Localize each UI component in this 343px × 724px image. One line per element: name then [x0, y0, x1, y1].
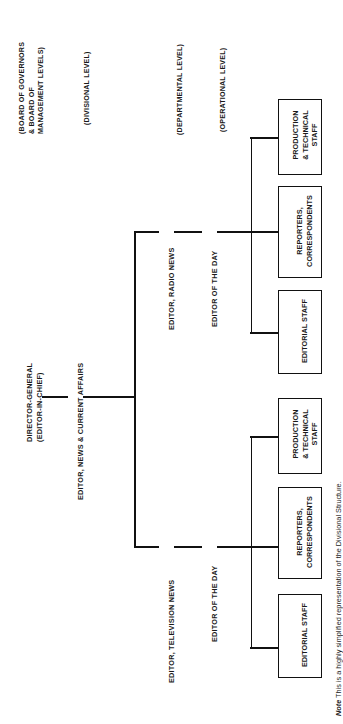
- box-production-technical-staff-radio[interactable]: PRODUCTION & TECHNICAL STAFF: [278, 99, 322, 175]
- edge-bus-radio-to-reporters: [250, 231, 279, 233]
- level-label-departmental-text: (DEPARTMENTAL LEVEL): [176, 44, 185, 135]
- box-production-technical-staff-tv[interactable]: PRODUCTION & TECHNICAL STAFF: [278, 398, 322, 474]
- box-tv-production-line1: PRODUCTION: [291, 401, 300, 467]
- edge-editor-radio-to-editor-day: [174, 231, 202, 233]
- node-editor-radio-news: EDITOR, RADIO NEWS: [167, 247, 176, 330]
- edge-editor-news-stem: [83, 396, 135, 398]
- node-director-general-line2: (EDITOR-IN-CHIEF): [35, 372, 44, 442]
- edge-bus-radio-to-production: [250, 137, 279, 139]
- box-editorial-staff-tv[interactable]: EDITORIAL STAFF: [278, 594, 322, 678]
- level-label-divisional: (DIVISIONAL LEVEL): [83, 51, 92, 125]
- box-tv-reporters-line2: CORRESPONDENTS: [305, 492, 314, 572]
- box-radio-reporters-line2: CORRESPONDENTS: [305, 191, 314, 271]
- level-label-departmental: (DEPARTMENTAL LEVEL): [176, 44, 185, 135]
- node-editor-television-news: EDITOR, TELEVISION NEWS: [167, 580, 176, 683]
- chart-note-text: This is a highly simplified representati…: [334, 481, 343, 699]
- chart-note-label: Note: [334, 700, 343, 716]
- chart-note: Note This is a highly simplified represe…: [334, 481, 343, 716]
- level-label-divisional-text: (DIVISIONAL LEVEL): [83, 51, 92, 125]
- level-label-board-line1: (BOARD OF GOVERNORS: [18, 42, 27, 134]
- level-label-board-line2: & BOARD OF: [28, 87, 37, 134]
- box-radio-reporters-line1: REPORTERS,: [295, 191, 304, 271]
- box-radio-editorial-line1: EDITORIAL STAFF: [300, 295, 309, 367]
- box-radio-production-line1: PRODUCTION: [291, 102, 300, 168]
- edge-bus-tv-to-editorial: [250, 647, 279, 649]
- node-editor-of-the-day-tv: EDITOR OF THE DAY: [210, 566, 219, 642]
- edge-bus-tv-to-reporters: [250, 546, 279, 548]
- level-label-board-3: MANAGEMENT LEVELS): [37, 47, 46, 134]
- box-tv-editorial-line1: EDITORIAL STAFF: [300, 599, 309, 671]
- edge-editor-tv-to-editor-day: [174, 546, 202, 548]
- node-editor-of-the-day-radio: EDITOR OF THE DAY: [210, 251, 219, 327]
- level-label-operational: (OPERATIONAL LEVEL): [219, 48, 228, 132]
- edge-divisional-bus: [134, 231, 136, 547]
- edge-bus-tv-to-production: [250, 436, 279, 438]
- edge-operational-bus-tv: [251, 436, 253, 648]
- node-director-general-line1: DIRECTOR-GENERAL: [25, 363, 34, 442]
- level-label-operational-text: (OPERATIONAL LEVEL): [219, 48, 228, 132]
- box-radio-production-line2: & TECHNICAL: [301, 102, 310, 168]
- edge-operational-bus-radio: [251, 137, 253, 333]
- edge-dg-to-editor-news: [42, 396, 68, 398]
- box-reporters-correspondents-tv[interactable]: REPORTERS, CORRESPONDENTS: [278, 487, 322, 579]
- box-tv-production-line3: STAFF: [310, 401, 319, 467]
- box-editorial-staff-radio[interactable]: EDITORIAL STAFF: [278, 290, 322, 374]
- box-tv-production-line2: & TECHNICAL: [301, 401, 310, 467]
- box-reporters-correspondents-radio[interactable]: REPORTERS, CORRESPONDENTS: [278, 186, 322, 278]
- edge-bus-radio-to-editorial: [250, 332, 279, 334]
- box-radio-production-line3: STAFF: [310, 102, 319, 168]
- edge-editor-day-tv-stem: [217, 546, 252, 548]
- box-tv-reporters-line1: REPORTERS,: [295, 492, 304, 572]
- level-label-board-2: & BOARD OF: [28, 87, 37, 134]
- level-label-board: (BOARD OF GOVERNORS: [18, 42, 27, 134]
- edge-editor-day-radio-stem: [217, 231, 252, 233]
- level-label-board-line3: MANAGEMENT LEVELS): [37, 47, 46, 134]
- edge-bus-to-editor-tv: [134, 546, 159, 548]
- edge-bus-to-editor-radio: [134, 231, 159, 233]
- node-editor-news: EDITOR, NEWS & CURRENT AFFAIRS: [76, 363, 85, 500]
